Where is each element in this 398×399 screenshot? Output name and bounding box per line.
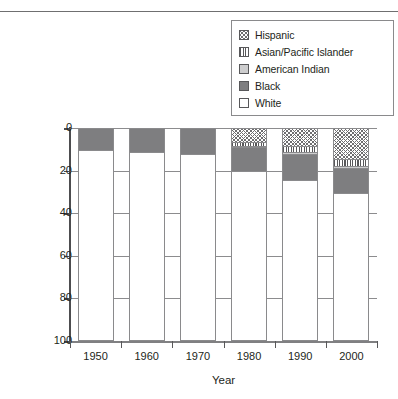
- bar-1980: [231, 128, 267, 341]
- bar-1970: [180, 128, 216, 341]
- gridline-20: [70, 298, 377, 299]
- x-axis-tick-label: 1980: [226, 350, 272, 362]
- vertical-stripe-swatch: [239, 47, 249, 57]
- legend-item-asian-pacific-islander: Asian/Pacific Islander: [239, 43, 393, 60]
- y-axis-tick-label: 60: [32, 249, 72, 261]
- gridline-80: [70, 171, 377, 172]
- y-axis-tick-label: 100: [32, 334, 72, 346]
- segment-white: [334, 194, 368, 340]
- y-axis-tick-label: 40: [32, 206, 72, 218]
- bar-1960: [129, 128, 165, 341]
- crosshatch-swatch: [239, 30, 249, 40]
- x-axis-tick-label: 1990: [277, 350, 323, 362]
- legend-label: Asian/Pacific Islander: [255, 46, 353, 58]
- legend-item-black: Black: [239, 77, 393, 94]
- segment-black: [334, 169, 368, 195]
- light-gray-swatch: [239, 64, 249, 74]
- segment-black: [79, 129, 113, 151]
- x-axis-tick: [172, 341, 173, 348]
- x-axis-tick: [70, 341, 71, 348]
- legend-item-hispanic: Hispanic: [239, 26, 393, 43]
- x-axis-title: Year: [69, 374, 378, 386]
- chart-legend: HispanicAsian/Pacific IslanderAmerican I…: [231, 20, 394, 116]
- dark-gray-swatch: [239, 81, 249, 91]
- legend-item-white: White: [239, 94, 393, 111]
- white-swatch: [239, 98, 249, 108]
- y-axis-tick-label: 0: [32, 121, 72, 133]
- segment-white: [181, 155, 215, 340]
- segment-asian-pacific-islander: [334, 160, 368, 168]
- segment-hispanic: [283, 129, 317, 147]
- gridline-40: [70, 256, 377, 257]
- y-axis-tick-label: 20: [32, 164, 72, 176]
- segment-black: [130, 129, 164, 153]
- bar-2000: [333, 128, 369, 341]
- page-header-rule: [0, 11, 398, 12]
- x-axis-tick: [377, 341, 378, 348]
- legend-label: Black: [255, 80, 280, 92]
- bar-1950: [78, 128, 114, 341]
- segment-black: [232, 148, 266, 172]
- gridline-60: [70, 213, 377, 214]
- segment-hispanic: [232, 129, 266, 143]
- segment-white: [79, 151, 113, 340]
- segment-white: [130, 153, 164, 340]
- legend-label: American Indian: [255, 63, 329, 75]
- x-axis-tick-label: 1950: [73, 350, 119, 362]
- segment-black: [181, 129, 215, 155]
- x-axis-tick-label: 1970: [175, 350, 221, 362]
- bar-1990: [282, 128, 318, 341]
- segment-white: [232, 172, 266, 340]
- x-axis-tick-label: 2000: [328, 350, 374, 362]
- y-axis-tick-label: 80: [32, 291, 72, 303]
- x-axis-tick-label: 1960: [124, 350, 170, 362]
- segment-black: [283, 155, 317, 181]
- gridline-100: [70, 128, 377, 129]
- x-axis-tick: [275, 341, 276, 348]
- segment-white: [283, 181, 317, 341]
- x-axis-tick: [326, 341, 327, 348]
- legend-label: White: [255, 97, 281, 109]
- legend-label: Hispanic: [255, 29, 294, 41]
- x-axis-tick: [121, 341, 122, 348]
- plot-area: 100806040200195019601970198019902000: [70, 128, 377, 341]
- segment-hispanic: [334, 129, 368, 160]
- x-axis-tick: [224, 341, 225, 348]
- legend-item-american-indian: American Indian: [239, 60, 393, 77]
